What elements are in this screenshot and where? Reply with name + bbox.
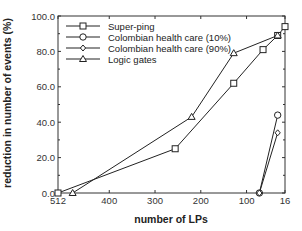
y-tick-label: 60.0 [37,81,56,92]
legend-item: Super-ping [66,21,154,32]
y-tick-label: 100.0 [31,11,55,22]
x-axis-title: number of LPs [134,213,208,225]
legend-label: Colombian health care (10%) [108,32,231,43]
series-colombian-health-care-90 [257,130,281,196]
series-logic-gates [69,32,281,196]
x-tick-label: 200 [193,195,209,206]
legend: Super-pingColombian health care (10%)Col… [66,21,231,65]
x-tick-label: 100 [239,195,255,206]
y-tick-label: 20.0 [37,152,56,163]
legend-item: Logic gates [66,54,157,65]
legend-label: Colombian health care (90%) [108,43,231,54]
y-tick-label: 40.0 [37,117,56,128]
x-tick-label: 16 [280,195,291,206]
legend-item: Colombian health care (10%) [66,32,231,43]
x-tick-label: 512 [50,195,66,206]
y-tick-label: 80.0 [37,46,56,57]
legend-label: Super-ping [108,21,154,32]
y-axis-title: reduction in number of events (%) [1,18,13,188]
x-tick-label: 300 [147,195,163,206]
series-colombian-health-care-10 [256,112,281,196]
x-tick-label: 400 [101,195,117,206]
line-chart: 0.020.040.060.080.0100.0 512400300200100… [0,0,302,231]
legend-label: Logic gates [108,54,157,65]
legend-item: Colombian health care (90%) [66,43,231,54]
